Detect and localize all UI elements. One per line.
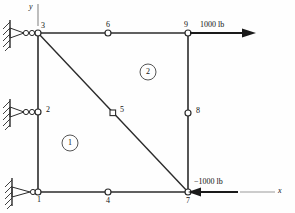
- node-label-5: 5: [120, 106, 124, 114]
- node-marker-8: [185, 110, 191, 116]
- element-label-2: 2: [146, 68, 150, 76]
- node-label-2: 2: [46, 106, 50, 114]
- finite-element-diagram: y x 1 2 3 4 5 6 7 8 9 1 2 1000 lb −1000 …: [0, 0, 295, 213]
- node-label-3: 3: [41, 22, 45, 30]
- support-node-1: [5, 178, 36, 209]
- node-label-7: 7: [186, 197, 190, 205]
- node-label-1: 1: [37, 196, 41, 204]
- diagram-canvas: [0, 0, 295, 213]
- support-node-2: [3, 99, 35, 130]
- node-label-9: 9: [184, 21, 188, 29]
- node-marker-6: [105, 30, 111, 36]
- node-marker-3: [35, 30, 41, 36]
- node-marker-2: [35, 109, 41, 115]
- load-label-top: 1000 lb: [200, 21, 224, 29]
- node-marker-5: [110, 110, 116, 116]
- node-label-8: 8: [196, 107, 200, 115]
- y-axis-label: y: [29, 3, 33, 11]
- load-arrow-top: [190, 29, 256, 38]
- load-arrow-bottom: [188, 188, 238, 197]
- load-label-bottom: −1000 lb: [194, 178, 223, 186]
- node-label-6: 6: [106, 21, 110, 29]
- x-axis-label: x: [278, 187, 282, 195]
- node-marker-4: [105, 189, 111, 195]
- support-node-3: [3, 20, 35, 51]
- node-label-4: 4: [106, 197, 110, 205]
- element-label-1: 1: [68, 139, 72, 147]
